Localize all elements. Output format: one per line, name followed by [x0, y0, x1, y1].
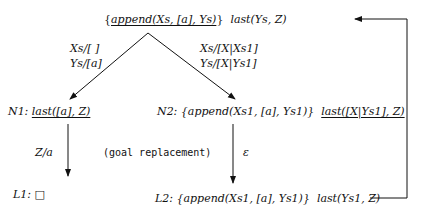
node-l2: L2: {append(Xs1, [a], Ys1)} last(Ys1, Z)	[155, 192, 380, 205]
goal-replacement-annotation: (goal replacement)	[103, 146, 211, 159]
n1-label: N1:	[8, 105, 28, 118]
node-n2: N2: {append(Xs1, [a], Ys1)} last([X|Ys1]…	[157, 105, 405, 118]
n2-l2-substitution: ε	[243, 146, 249, 159]
l2-label: L2:	[155, 192, 173, 205]
l2-goal: {append(Xs1, [a], Ys1)}	[177, 192, 310, 205]
root-open-brace: {	[104, 13, 111, 26]
l2-goal-2: last(Ys1, Z)	[317, 192, 380, 205]
n1-selected-goal: last([a], Z)	[32, 105, 91, 118]
n2-selected-goal: last([X|Ys1], Z)	[321, 105, 404, 118]
root-node: {append(Xs, [a], Ys)} last(Ys, Z)	[104, 13, 287, 26]
node-n1: N1: last([a], Z)	[8, 105, 90, 118]
node-l1: L1: □	[13, 188, 45, 201]
root-selected-goal: append(Xs, [a], Ys)	[111, 13, 216, 26]
root-close-brace: }	[216, 13, 223, 26]
left-substitution-1: Xs/[ ]	[70, 42, 99, 55]
n2-goal: {append(Xs1, [a], Ys1)}	[181, 105, 314, 118]
l1-label: L1:	[13, 188, 31, 201]
empty-clause-box-icon: □	[35, 188, 45, 201]
left-substitution-2: Ys/[a]	[70, 57, 102, 70]
n1-l1-substitution: Z/a	[35, 146, 53, 159]
right-substitution-1: Xs/[X|Xs1]	[200, 42, 258, 55]
n2-label: N2:	[157, 105, 177, 118]
root-goal: last(Ys, Z)	[230, 13, 286, 26]
right-substitution-2: Ys/[X|Ys1]	[200, 57, 257, 70]
